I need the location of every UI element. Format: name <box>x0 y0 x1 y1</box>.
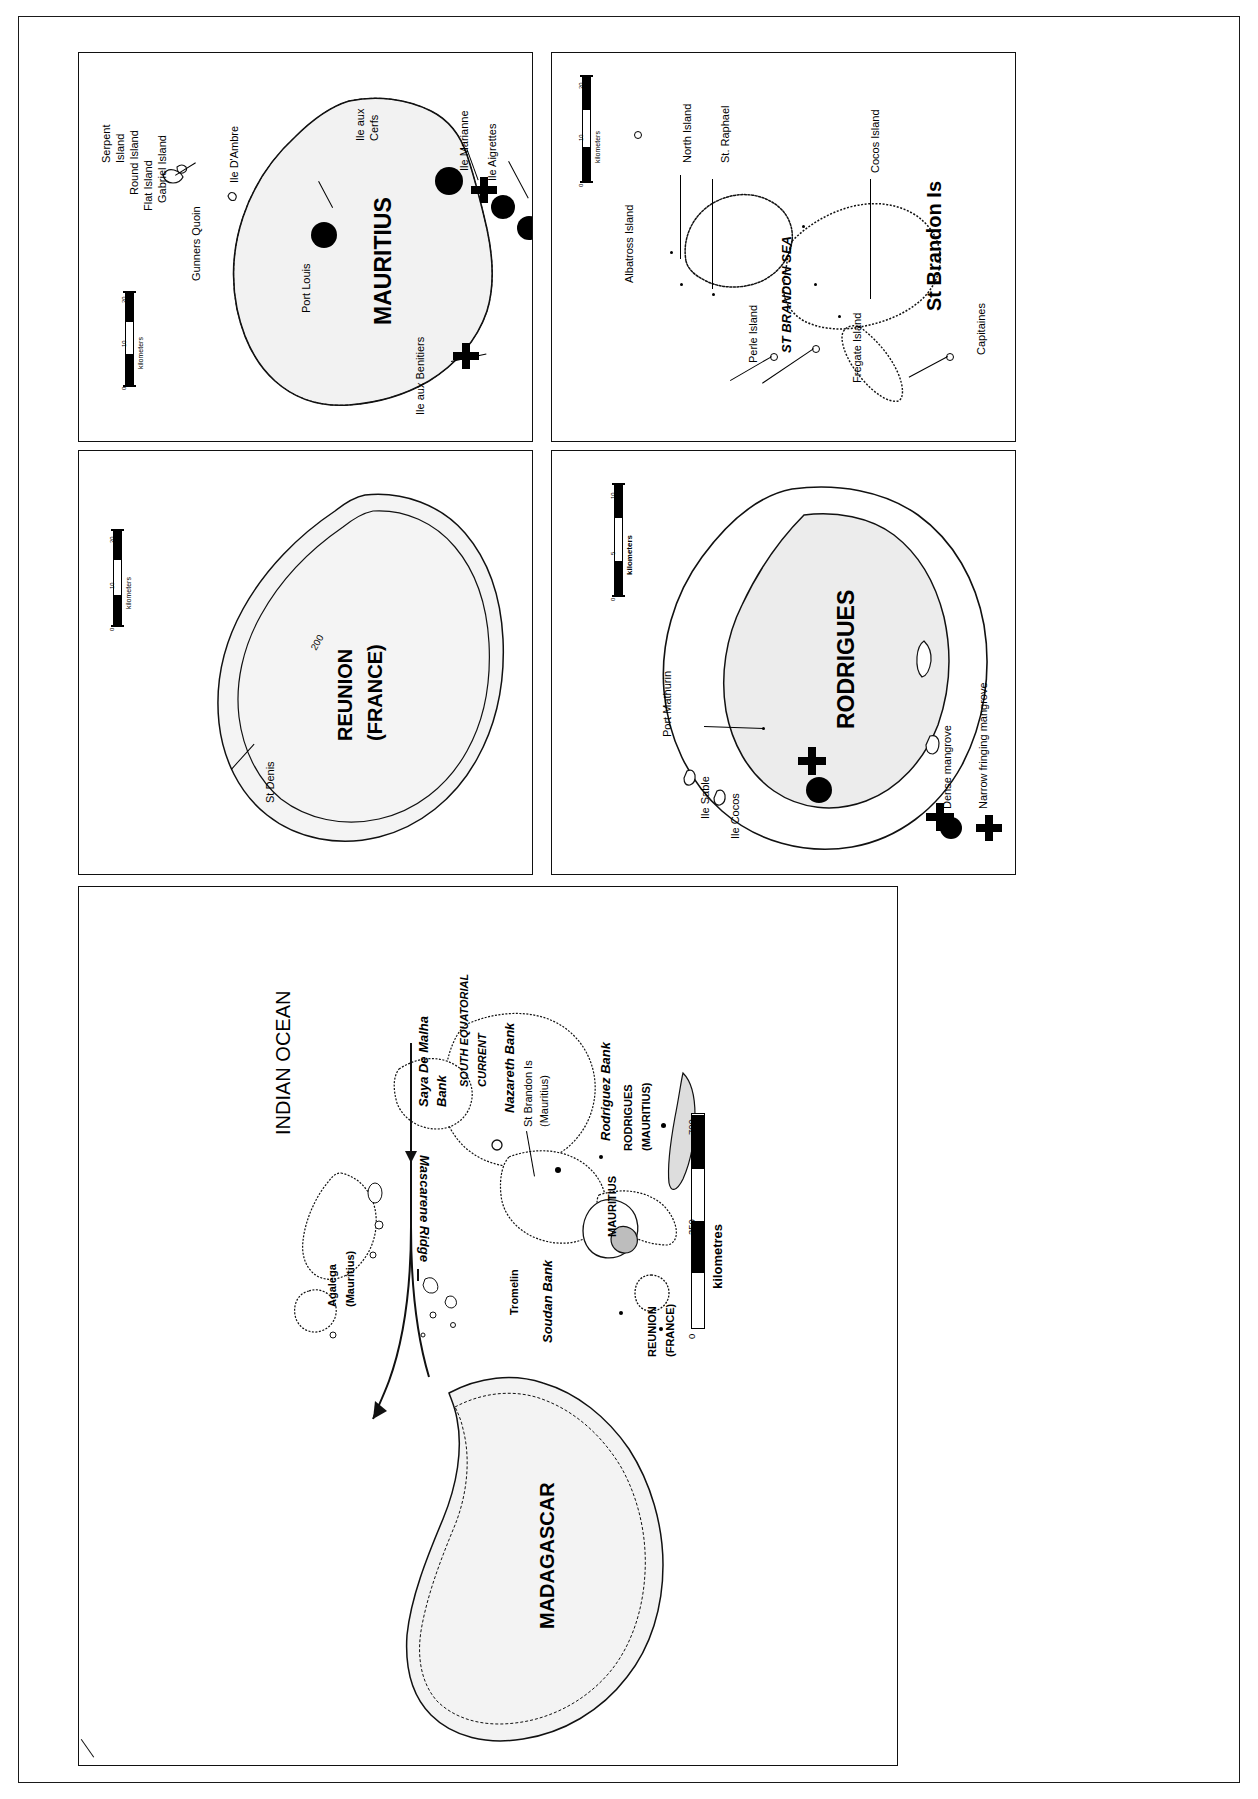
st-brandon-reef-shape <box>652 143 1002 403</box>
legend-label-dense-mangrove: Dense mangrove <box>942 725 954 809</box>
panel-title-reunion-line1: REUNION <box>335 649 356 741</box>
label-ile-cocos: Ile Cocos <box>730 793 742 839</box>
label-capitaines: Capitaines <box>976 303 988 355</box>
marker-dense-mangrove <box>435 167 463 195</box>
rodriguez-bank-dot <box>661 1123 666 1128</box>
label-st-raphael: St. Raphael <box>720 106 732 163</box>
scalebar-rodrigues: kilometers 0 5 10 <box>614 483 642 597</box>
marker-dense-mangrove <box>806 777 832 803</box>
leader-line <box>680 175 681 259</box>
islet-dot <box>802 225 805 228</box>
scalebar-units: kilometers <box>626 535 634 575</box>
label-albatross-island: Albatross Island <box>624 205 636 283</box>
scalebar-tick-20: 20 <box>121 296 127 303</box>
label-indian-ocean: INDIAN OCEAN <box>273 991 294 1135</box>
legend: Dense mangrove Narrow fringing mangrove <box>930 747 1010 857</box>
label-nazareth-bank: Nazareth Bank <box>503 1023 517 1113</box>
label-gunners-quoin: Gunners Quoin <box>191 206 203 281</box>
scalebar-tick-0: 0 <box>109 628 115 631</box>
scalebar-cap <box>612 483 625 485</box>
panel-title-rodrigues: RODRIGUES <box>834 590 858 729</box>
panel-title-st-brandon: St Brandon Is <box>924 181 945 311</box>
leader-line <box>712 179 713 289</box>
marker-dense-mangrove <box>311 222 337 248</box>
label-cocos-island: Cocos Island <box>870 109 882 173</box>
scalebar-tick-700: 700 <box>687 1119 697 1135</box>
scalebar-tick-10: 10 <box>121 340 127 347</box>
leader-line <box>870 179 871 299</box>
label-st-denis: St Denis <box>265 761 277 803</box>
round-island-islet <box>225 189 239 203</box>
label-saya-de-malha-line2: Bank <box>435 1075 449 1107</box>
scalebar-cap <box>580 75 593 77</box>
islet-dot <box>599 1155 603 1159</box>
label-reunion-overview-line1: REUNION <box>647 1306 659 1357</box>
label-rodriguez-bank: Rodriguez Bank <box>599 1042 613 1141</box>
albatross-islet <box>634 131 642 139</box>
scalebar-tick-0: 0 <box>578 184 584 187</box>
panel-overview-indian-ocean: MADAGASCAR <box>78 886 898 1766</box>
scalebar-tick-10: 10 <box>109 582 115 589</box>
label-tromelin: Tromelin <box>509 1269 521 1315</box>
label-gabriel-island: Gabriel Island <box>157 135 169 203</box>
scalebar-segment <box>113 530 122 560</box>
islet-dot <box>680 283 683 286</box>
label-soudan-bank: Soudan Bank <box>541 1260 555 1343</box>
label-ile-aux-benitiers: Ile aux Benitiers <box>415 337 427 415</box>
label-agalega-line2: (Mauritius) <box>345 1251 357 1307</box>
scalebar-segment <box>113 595 122 626</box>
scalebar-segment <box>582 147 591 182</box>
label-fregate-island: Fregate Island <box>852 313 864 383</box>
scalebar-tick-10: 10 <box>610 492 616 499</box>
label-port-louis: Port Louis <box>301 263 313 313</box>
panel-mauritius: MAURITIUS Serpent Island Round Island Fl… <box>78 52 533 442</box>
scalebar-units: kilometers <box>594 131 601 163</box>
legend-label-narrow-fringing: Narrow fringing mangrove <box>978 682 990 809</box>
scalebar-tick-5: 5 <box>610 552 616 555</box>
figure-page: MAURITIUS Serpent Island Round Island Fl… <box>0 0 1258 1799</box>
label-port-mathurin: Port Mathurin <box>662 671 674 737</box>
label-perle-island: Perle Island <box>748 305 760 363</box>
scalebar-reunion: kilometers 0 10 20 <box>113 529 141 627</box>
islet-dot <box>712 293 715 296</box>
ile-sable-islet <box>682 767 698 787</box>
scalebar-segment <box>614 484 623 518</box>
scalebar-tick-20: 20 <box>109 536 115 543</box>
label-ile-aux-cerfs-line2: Cerfs <box>369 115 381 141</box>
scalebar-units: kilometres <box>711 1224 725 1289</box>
scalebar-overview: kilometres 0 350 700 <box>691 1113 731 1329</box>
ile-cocos-islet <box>712 787 728 807</box>
label-mascarene-ridge: Mascarene Ridge <box>417 1155 431 1262</box>
scalebar-st-brandon: kilometers 0 10 20 <box>582 75 610 183</box>
soudan-bank-dot <box>555 1167 561 1173</box>
scalebar-tick-350: 350 <box>687 1219 697 1235</box>
scalebar-segment <box>614 561 623 595</box>
label-ile-aux-cerfs-line1: Ile aux <box>355 109 367 141</box>
east-islet <box>914 639 936 679</box>
label-flat-island: Flat Island <box>143 160 155 211</box>
label-ile-marianne: Ile Marianne <box>459 110 471 171</box>
panel-reunion: St Denis 200 REUNION (FRANCE) kilometers… <box>78 450 533 875</box>
scalebar-tick-10: 10 <box>578 134 584 141</box>
panel-rodrigues: Port Mathurin Ile Sable Ile Cocos RODRIG… <box>551 450 1016 875</box>
label-serpent-island-line2: Island <box>115 134 127 163</box>
label-agalega-line1: Agalega <box>327 1264 339 1307</box>
label-south-equatorial-current-line2: CURRENT <box>477 1033 489 1087</box>
islet-dot <box>838 315 841 318</box>
label-south-equatorial-current-line1: SOUTH EQUATORIAL <box>459 974 471 1087</box>
label-reunion-overview-line2: (FRANCE) <box>665 1304 677 1357</box>
islet-dot <box>619 1311 623 1315</box>
scalebar-units: kilometers <box>125 577 132 609</box>
label-st-brandon-is-line2: (Mauritius) <box>539 1075 551 1127</box>
scalebar-tick-0: 0 <box>687 1334 697 1339</box>
islet-dot <box>659 1327 663 1331</box>
label-madagascar-text: MADAGASCAR <box>537 1482 558 1629</box>
label-mauritius-overview: MAURITIUS <box>607 1176 619 1237</box>
label-st-brandon-sea: ST BRANDON SEA <box>780 236 794 353</box>
legend-symbol-dense-mangrove <box>940 817 962 839</box>
marker-narrow-fringing <box>527 213 533 239</box>
scalebar-mauritius: kilometers 0 10 20 <box>125 291 153 387</box>
scalebar-tick-20: 20 <box>578 82 584 89</box>
label-rodrigues-overview-line2: (MAURITIUS) <box>641 1083 653 1151</box>
scalebar-cap <box>123 291 136 293</box>
